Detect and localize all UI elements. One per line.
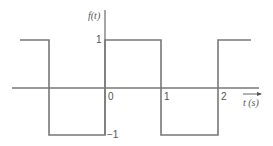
x-axis-label: t (s) [243,98,259,108]
square-wave-chart [0,0,273,146]
x-tick-1: 1 [164,92,170,102]
y-axis-label: f(t) [88,11,100,21]
x-tick-0: 0 [108,92,114,102]
t-arrow-head-icon [257,92,262,96]
y-tick-1: 1 [96,35,102,45]
y-tick-neg-1: −1 [107,130,118,140]
x-tick-2: 2 [221,92,227,102]
